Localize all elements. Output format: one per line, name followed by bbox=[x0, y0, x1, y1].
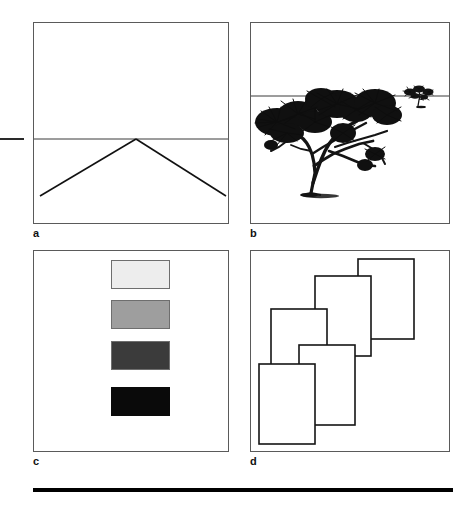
swatch-light-gray bbox=[111, 300, 170, 329]
near-tree-foliage bbox=[255, 88, 402, 171]
card-front-left bbox=[259, 364, 315, 444]
panel-d-drawing bbox=[251, 251, 450, 452]
panel-a-linear-perspective bbox=[33, 22, 229, 224]
panel-c-label: c bbox=[33, 456, 39, 467]
panel-b-relative-size bbox=[250, 22, 450, 224]
panel-d-label: d bbox=[250, 456, 257, 467]
figure-root: a bbox=[0, 0, 473, 510]
panel-a-label: a bbox=[33, 228, 39, 239]
far-tree bbox=[403, 85, 434, 108]
panel-b-drawing bbox=[251, 23, 450, 224]
left-margin-tick bbox=[0, 138, 24, 140]
panel-c-aerial-perspective bbox=[33, 250, 229, 452]
panel-b-label: b bbox=[250, 228, 257, 239]
swatch-dark-gray bbox=[111, 341, 170, 370]
perspective-line-left bbox=[40, 139, 136, 196]
near-tree bbox=[255, 88, 402, 198]
far-tree-ground-shadow bbox=[416, 106, 426, 108]
swatch-black bbox=[111, 387, 170, 416]
panel-d-interposition bbox=[250, 250, 450, 452]
swatch-lightest bbox=[111, 260, 170, 289]
perspective-line-right bbox=[136, 139, 226, 196]
bottom-rule bbox=[33, 488, 453, 492]
panel-a-drawing bbox=[34, 23, 229, 224]
